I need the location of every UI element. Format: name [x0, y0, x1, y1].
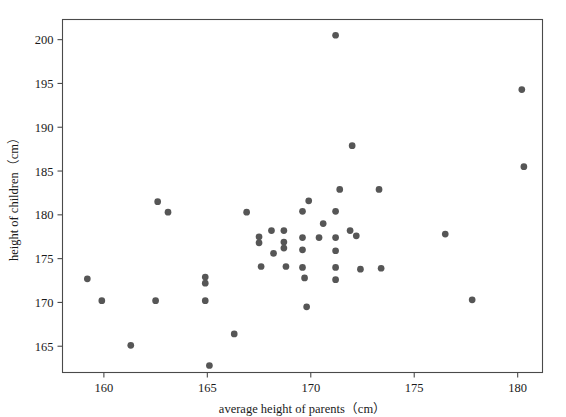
x-axis-title: average height of parents（cm）	[219, 402, 386, 416]
x-tick-label: 175	[405, 381, 424, 395]
data-point	[206, 362, 213, 369]
y-tick-label: 200	[35, 33, 54, 47]
data-point	[283, 263, 290, 270]
data-point	[127, 342, 134, 349]
data-point-group	[84, 32, 527, 369]
data-point	[98, 297, 105, 304]
y-tick-label: 190	[35, 121, 54, 135]
data-point	[316, 234, 323, 241]
data-point	[258, 263, 265, 270]
data-point	[256, 240, 263, 247]
data-point	[281, 239, 288, 246]
x-tick-label: 165	[198, 381, 217, 395]
data-point	[305, 197, 312, 204]
data-point	[202, 280, 209, 287]
y-tick-label: 175	[35, 252, 54, 266]
data-point	[332, 264, 339, 271]
data-point	[332, 276, 339, 283]
data-point	[299, 208, 306, 215]
data-point	[299, 264, 306, 271]
data-point	[303, 303, 310, 310]
data-point	[353, 232, 360, 239]
data-point	[231, 331, 238, 338]
data-point	[202, 297, 209, 304]
data-point	[281, 245, 288, 252]
plot-canvas: 160165170175180165170175180185190195200a…	[0, 0, 566, 417]
data-point	[243, 209, 250, 216]
data-point	[469, 296, 476, 303]
data-point	[521, 163, 528, 170]
data-point	[202, 274, 209, 281]
data-point	[442, 231, 449, 238]
data-point	[332, 208, 339, 215]
y-tick-label: 170	[35, 296, 54, 310]
x-tick-label: 160	[95, 381, 114, 395]
data-point	[320, 220, 327, 227]
y-tick-label: 185	[35, 165, 54, 179]
scatter-plot-figure: 160165170175180165170175180185190195200a…	[0, 0, 566, 417]
data-point	[332, 32, 339, 39]
data-point	[518, 86, 525, 93]
data-point	[301, 275, 308, 282]
data-point	[357, 266, 364, 273]
data-point	[154, 198, 161, 205]
x-tick-label: 170	[301, 381, 320, 395]
data-point	[299, 247, 306, 254]
data-point	[165, 209, 172, 216]
data-point	[299, 234, 306, 241]
data-point	[376, 186, 383, 193]
data-point	[281, 227, 288, 234]
data-point	[268, 227, 275, 234]
x-tick-label: 180	[508, 381, 527, 395]
data-point	[332, 234, 339, 241]
y-axis-title: height of children（cm）	[7, 131, 21, 261]
data-point	[270, 250, 277, 257]
plot-frame	[63, 20, 543, 373]
data-point	[256, 233, 263, 240]
data-point	[347, 227, 354, 234]
y-tick-label: 195	[35, 77, 54, 91]
data-point	[336, 186, 343, 193]
data-point	[378, 265, 385, 272]
data-point	[152, 297, 159, 304]
y-tick-label: 180	[35, 208, 54, 222]
data-point	[84, 275, 91, 282]
y-tick-label: 165	[35, 340, 54, 354]
data-point	[349, 142, 356, 149]
data-point	[332, 247, 339, 254]
